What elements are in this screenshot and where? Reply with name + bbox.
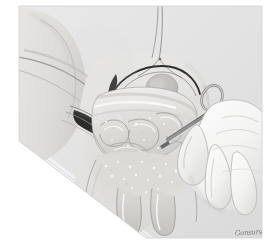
illustration-canvas	[0, 0, 270, 248]
medical-illustration-figure: Gonsurs	[0, 0, 270, 248]
